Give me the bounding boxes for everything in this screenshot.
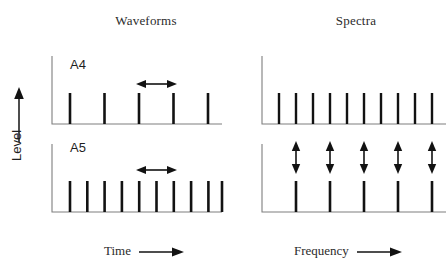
double-arrow-vertical-icon <box>326 141 334 174</box>
x-axis-label-frequency: Frequency <box>294 243 349 258</box>
x-axis-caption-frequency: Frequency <box>294 243 403 259</box>
right-arrow-icon <box>357 246 403 258</box>
axis-a5-waveform <box>52 144 222 212</box>
double-arrow-vertical-icon <box>394 141 402 174</box>
panel-a4-waveform <box>52 56 222 124</box>
panel-a5-spectrum <box>262 141 446 212</box>
plot-layer <box>0 0 446 277</box>
panel-a4-spectrum <box>262 56 446 124</box>
double-arrow-vertical-icon <box>360 141 368 174</box>
panel-a5-waveform <box>52 144 222 212</box>
period-double-arrow-a5 <box>136 166 177 174</box>
spike-group-a4-spectrum <box>279 93 432 124</box>
axis-a5-spectrum <box>262 144 446 212</box>
right-arrow-icon <box>139 246 185 258</box>
double-arrow-vertical-icon <box>292 141 300 174</box>
x-axis-caption-time: Time <box>104 243 185 259</box>
axis-a4-waveform <box>52 56 222 124</box>
spike-group-a5-waveform <box>70 181 222 212</box>
axis-a4-spectrum <box>262 56 446 124</box>
double-arrow-vertical-icon <box>428 141 436 174</box>
harmonic-spacing-arrow-group <box>292 141 436 174</box>
figure-canvas: Waveforms Spectra Level A4 A5 <box>0 0 446 277</box>
spike-group-a4-waveform <box>70 93 208 124</box>
x-axis-label-time: Time <box>104 243 131 258</box>
period-double-arrow-a4 <box>136 80 177 88</box>
spike-group-a5-spectrum <box>296 181 432 212</box>
